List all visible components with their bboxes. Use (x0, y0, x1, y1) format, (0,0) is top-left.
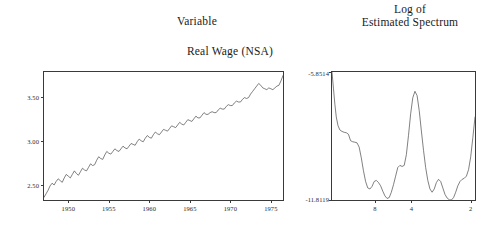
spectrum-series-line (332, 72, 475, 200)
x-tick-1955 (109, 200, 110, 203)
y-tick-label-3.50: 3.50 (21, 93, 39, 100)
y-tick-label-2.50: 2.50 (21, 181, 39, 188)
x-tick-label-1960: 1960 (143, 205, 156, 212)
x-tick-label-1955: 1955 (102, 205, 115, 212)
x-tick-label-1975: 1975 (264, 205, 277, 212)
figure-canvas: Variable Log of Estimated Spectrum Real … (0, 0, 491, 240)
real-wage-chart-panel (43, 71, 284, 201)
y-tick-2.50 (41, 185, 44, 186)
x-tick-1950 (68, 200, 69, 203)
real-wage-series-line (44, 76, 283, 198)
x-tick-1965 (190, 200, 191, 203)
right-panel-title: Log of Estimated Spectrum (330, 3, 490, 28)
y-axis-min-label: -11.8119 (297, 196, 329, 203)
x-tick-1960 (149, 200, 150, 203)
spectrum-line-plot (331, 71, 476, 201)
x-tick-2 (471, 200, 472, 203)
x-tick-4 (411, 200, 412, 203)
y-tick-label-3.00: 3.00 (21, 137, 39, 144)
y-tick-3.00 (41, 141, 44, 142)
right-panel-title-line1: Log of (330, 3, 490, 16)
real-wage-line-plot (43, 71, 284, 201)
x-tick-8 (375, 200, 376, 203)
y-axis-max-label: -5.8514 (301, 70, 329, 77)
y-tick-max (329, 72, 332, 73)
x-tick-1970 (230, 200, 231, 203)
x-tick-label-4: 4 (410, 205, 413, 212)
right-panel-title-line2: Estimated Spectrum (330, 16, 490, 29)
left-panel-title: Variable (142, 15, 252, 27)
x-tick-label-1965: 1965 (183, 205, 196, 212)
y-tick-min (329, 200, 332, 201)
left-chart-subtitle: Real Wage (NSA) (150, 45, 310, 57)
x-tick-label-1950: 1950 (62, 205, 75, 212)
x-tick-label-2: 2 (469, 205, 472, 212)
spectrum-chart-panel (331, 71, 476, 201)
x-tick-label-8: 8 (373, 205, 376, 212)
y-tick-3.50 (41, 97, 44, 98)
x-tick-label-1970: 1970 (224, 205, 237, 212)
x-tick-1975 (271, 200, 272, 203)
